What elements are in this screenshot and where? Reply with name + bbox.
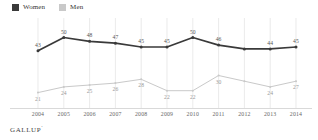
data-point-women-2005[interactable] xyxy=(62,36,65,39)
data-point-men-2010[interactable] xyxy=(192,90,194,92)
x-axis-label-2011: 2011 xyxy=(213,111,225,118)
gallup-logo: GALLUP’ xyxy=(10,125,43,134)
data-label-men-2010: 22 xyxy=(190,94,196,100)
x-axis-label-2005: 2005 xyxy=(58,111,70,118)
data-label-men-2014: 27 xyxy=(293,84,299,90)
x-axis-label-2007: 2007 xyxy=(109,111,121,118)
data-label-women-2011: 46 xyxy=(216,36,222,42)
data-label-women-2014: 45 xyxy=(293,38,299,44)
data-point-women-2004[interactable] xyxy=(37,49,40,52)
data-point-men-2004[interactable] xyxy=(37,92,39,94)
data-point-women-2008[interactable] xyxy=(140,46,143,49)
data-label-women-2013: 44 xyxy=(267,40,273,46)
legend-item-women[interactable]: Women xyxy=(12,4,45,11)
plot-area: 4350484745455046444521242526282222302427… xyxy=(0,16,318,120)
data-point-men-2006[interactable] xyxy=(89,84,91,86)
data-label-men-2004: 21 xyxy=(35,96,41,102)
data-label-women-2009: 45 xyxy=(164,38,170,44)
data-point-women-2006[interactable] xyxy=(88,40,91,43)
gallup-line-chart: WomenMen 4350484745455046444521242526282… xyxy=(0,0,318,140)
trademark-mark: ’ xyxy=(41,125,43,130)
legend-swatch-women-icon xyxy=(12,4,19,11)
data-point-men-2012[interactable] xyxy=(243,80,245,82)
x-axis-label-2004: 2004 xyxy=(32,111,44,118)
legend-item-men[interactable]: Men xyxy=(59,4,83,11)
data-label-men-2011: 30 xyxy=(216,79,222,85)
x-axis-label-2006: 2006 xyxy=(83,111,95,118)
plot-svg xyxy=(0,16,318,120)
data-point-men-2011[interactable] xyxy=(218,75,220,77)
x-axis-label-2009: 2009 xyxy=(161,111,173,118)
data-point-women-2014[interactable] xyxy=(295,46,298,49)
data-point-men-2007[interactable] xyxy=(114,82,116,84)
data-point-men-2014[interactable] xyxy=(295,80,297,82)
data-label-women-2005: 50 xyxy=(61,29,67,35)
x-axis-label-2013: 2013 xyxy=(264,111,276,118)
data-point-women-2009[interactable] xyxy=(166,46,169,49)
x-axis-label-2012: 2012 xyxy=(238,111,250,118)
chart-legend: WomenMen xyxy=(12,4,83,11)
data-label-women-2004: 43 xyxy=(35,42,41,48)
data-label-men-2008: 28 xyxy=(138,82,144,88)
data-label-men-2006: 25 xyxy=(87,88,93,94)
legend-label-men: Men xyxy=(70,4,83,11)
data-label-women-2007: 47 xyxy=(112,34,118,40)
data-label-men-2005: 24 xyxy=(61,90,67,96)
data-label-women-2008: 45 xyxy=(138,38,144,44)
legend-swatch-men-icon xyxy=(59,4,66,11)
data-point-women-2013[interactable] xyxy=(269,47,272,50)
data-label-men-2013: 24 xyxy=(267,90,273,96)
gallup-wordmark: GALLUP xyxy=(10,126,41,134)
data-point-men-2013[interactable] xyxy=(269,86,271,88)
data-point-men-2009[interactable] xyxy=(166,90,168,92)
data-label-men-2009: 22 xyxy=(164,94,170,100)
data-label-women-2010: 50 xyxy=(190,29,196,35)
data-point-women-2010[interactable] xyxy=(191,36,194,39)
legend-label-women: Women xyxy=(23,4,45,11)
x-axis-label-2008: 2008 xyxy=(135,111,147,118)
data-point-men-2005[interactable] xyxy=(63,86,65,88)
x-axis-label-2010: 2010 xyxy=(187,111,199,118)
data-point-men-2008[interactable] xyxy=(140,78,142,80)
data-point-women-2011[interactable] xyxy=(217,44,220,47)
data-label-women-2006: 48 xyxy=(87,32,93,38)
data-label-men-2007: 26 xyxy=(112,86,118,92)
data-point-women-2007[interactable] xyxy=(114,42,117,45)
x-axis-label-2014: 2014 xyxy=(290,111,302,118)
data-point-women-2012[interactable] xyxy=(243,47,246,50)
